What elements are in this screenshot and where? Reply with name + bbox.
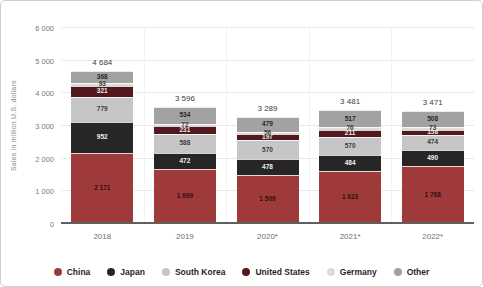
bar-segment-2022--japan[interactable]: 490: [402, 150, 464, 166]
bar-segment-2018-japan[interactable]: 952: [71, 122, 133, 153]
segment-value-label: 472: [179, 158, 190, 165]
legend-label: Japan: [120, 267, 145, 277]
x-tick-label-2022-: 2022*: [422, 232, 443, 241]
bar-2019: 1 699472588231725343 5962019: [154, 28, 216, 224]
segment-value-label: 508: [427, 116, 438, 123]
bar-2018: 2 171952779321933684 6842018: [71, 28, 133, 224]
x-tick-label-2020-: 2020*: [257, 232, 278, 241]
x-tick-label-2018: 2018: [93, 232, 111, 241]
segment-value-label: 1 768: [425, 192, 441, 199]
legend-item-germany[interactable]: Germany: [327, 267, 377, 277]
bar-segment-2019-south-korea[interactable]: 588: [154, 134, 216, 153]
segment-value-label: 368: [97, 74, 108, 81]
segment-value-label: 570: [262, 147, 273, 154]
legend: ChinaJapanSouth KoreaUnited StatesGerman…: [1, 267, 482, 277]
bar-total-label: 3 289: [257, 104, 277, 113]
bar-segment-2021--china[interactable]: 1 623: [319, 171, 381, 224]
segment-value-label: 474: [427, 139, 438, 146]
y-tick-label: 5 000: [35, 56, 54, 65]
bar-total-label: 3 596: [175, 94, 195, 103]
bar-segment-2021--germany[interactable]: 76: [319, 127, 381, 129]
segment-value-label: 2 171: [94, 185, 110, 192]
bar-total-label: 3 481: [340, 97, 360, 106]
segment-value-label: 56: [264, 130, 271, 137]
legend-dot-germany: [327, 268, 335, 276]
legend-label: United States: [255, 267, 309, 277]
segment-value-label: 952: [97, 134, 108, 141]
segment-value-label: 1 699: [177, 193, 193, 200]
bar-segment-2022--china[interactable]: 1 768: [402, 166, 464, 224]
legend-label: Other: [407, 267, 430, 277]
segment-value-label: 479: [262, 121, 273, 128]
bar-segment-2022--south-korea[interactable]: 474: [402, 135, 464, 150]
segment-value-label: 570: [345, 143, 356, 150]
legend-dot-japan: [107, 268, 115, 276]
segment-value-label: 478: [262, 164, 273, 171]
y-tick-label: 0: [50, 220, 54, 229]
legend-item-other[interactable]: Other: [394, 267, 430, 277]
y-tick-label: 3 000: [35, 122, 54, 131]
bar-total-label: 3 471: [423, 98, 443, 107]
bar-segment-2020--germany[interactable]: 56: [237, 132, 299, 134]
chart-frame: Sales in million U.S. dollars 01 0002 00…: [0, 0, 483, 287]
x-tick-label-2019: 2019: [176, 232, 194, 241]
segment-value-label: 93: [99, 81, 106, 88]
legend-item-united-states[interactable]: United States: [242, 267, 309, 277]
y-tick-label: 4 000: [35, 89, 54, 98]
legend-item-japan[interactable]: Japan: [107, 267, 145, 277]
bar-2022-: 1 768490474158735083 4712022*: [402, 28, 464, 224]
bar-segment-2019-japan[interactable]: 472: [154, 153, 216, 168]
bar-segment-2021--japan[interactable]: 484: [319, 155, 381, 171]
bar-segment-2022--germany[interactable]: 73: [402, 127, 464, 129]
bar-2021-: 1 623484570211765173 4812021*: [319, 28, 381, 224]
segment-value-label: 779: [97, 106, 108, 113]
legend-dot-other: [394, 268, 402, 276]
bar-segment-2018-germany[interactable]: 93: [71, 83, 133, 86]
vertical-gridline: [309, 28, 310, 224]
vertical-gridline: [144, 28, 145, 224]
bar-segment-2020--china[interactable]: 1 509: [237, 175, 299, 224]
segment-value-label: 1 509: [259, 196, 275, 203]
bar-total-label: 4 684: [92, 58, 112, 67]
plot-area: 01 0002 0003 0004 0005 0006 0002 1719527…: [61, 28, 474, 224]
segment-value-label: 1 623: [342, 194, 358, 201]
vertical-gridline: [226, 28, 227, 224]
legend-label: China: [67, 267, 91, 277]
segment-value-label: 76: [346, 125, 353, 132]
segment-value-label: 534: [179, 112, 190, 119]
legend-dot-south-korea: [162, 268, 170, 276]
bar-segment-2018-china[interactable]: 2 171: [71, 153, 133, 224]
y-axis-title: Sales in million U.S. dollars: [10, 28, 17, 224]
segment-value-label: 484: [345, 160, 356, 167]
segment-value-label: 73: [429, 125, 436, 132]
segment-value-label: 588: [179, 140, 190, 147]
vertical-gridline: [391, 28, 392, 224]
legend-item-china[interactable]: China: [54, 267, 91, 277]
y-tick-label: 2 000: [35, 154, 54, 163]
y-tick-label: 1 000: [35, 187, 54, 196]
bar-segment-2021--south-korea[interactable]: 570: [319, 137, 381, 156]
segment-value-label: 321: [97, 88, 108, 95]
segment-value-label: 517: [345, 116, 356, 123]
segment-value-label: 490: [427, 155, 438, 162]
bar-segment-2019-china[interactable]: 1 699: [154, 169, 216, 225]
segment-value-label: 72: [181, 122, 188, 129]
legend-dot-united-states: [242, 268, 250, 276]
bar-segment-2020--japan[interactable]: 478: [237, 159, 299, 175]
legend-item-south-korea[interactable]: South Korea: [162, 267, 226, 277]
bar-segment-2019-germany[interactable]: 72: [154, 124, 216, 126]
legend-dot-china: [54, 268, 62, 276]
bar-2020-: 1 509478570197564793 2892020*: [237, 28, 299, 224]
x-tick-label-2021-: 2021*: [340, 232, 361, 241]
legend-label: South Korea: [175, 267, 226, 277]
y-tick-label: 6 000: [35, 24, 54, 33]
bar-segment-2020--south-korea[interactable]: 570: [237, 140, 299, 159]
legend-label: Germany: [340, 267, 377, 277]
bar-segment-2018-south-korea[interactable]: 779: [71, 97, 133, 122]
x-axis-baseline: [61, 222, 474, 224]
